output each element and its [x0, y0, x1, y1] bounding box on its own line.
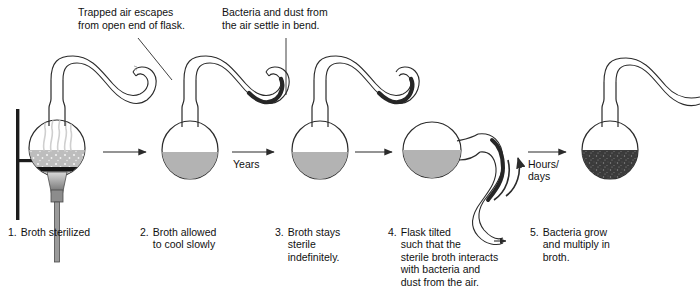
- caption-1: 1. Broth sterilized: [8, 226, 132, 238]
- caption-5: 5. Bacteria grow and multiply in broth.: [530, 226, 660, 263]
- flask-3-group: [290, 56, 419, 184]
- caption-1-text: Broth sterilized: [21, 226, 132, 238]
- step-label-years: Years: [233, 158, 259, 170]
- caption-3-number: 3.: [275, 226, 284, 263]
- caption-5-text: Bacteria grow and multiply in broth.: [543, 226, 660, 263]
- swan-neck-tube-5: [604, 58, 700, 106]
- step-label-hours-days: Hours/ days: [528, 158, 559, 183]
- flask-1-neck: [49, 80, 65, 126]
- caption-2: 2. Broth allowed to cool slowly: [140, 226, 264, 251]
- diagram-canvas: Trapped air escapes from open end of fla…: [0, 0, 700, 300]
- caption-2-text: Broth allowed to cool slowly: [153, 226, 264, 251]
- flask-5-neck: [602, 82, 618, 127]
- bunsen-burner: [47, 172, 67, 262]
- tube-4-dust-deposit: [488, 140, 503, 200]
- swan-neck-tube-1: [51, 56, 156, 103]
- tube-2-open-end: [266, 72, 269, 76]
- caption-3-text: Broth stays sterile indefinitely.: [288, 226, 383, 263]
- caption-4-number: 4.: [388, 226, 397, 288]
- flask-2-neck: [182, 80, 198, 127]
- annotation-leader-trapped-air: [138, 38, 172, 80]
- annotation-bacteria-dust: Bacteria and dust from the air settle in…: [222, 6, 372, 31]
- flask-5-broth: [580, 150, 640, 184]
- flask-5-group: [580, 58, 700, 184]
- annotation-trapped-air: Trapped air escapes from open end of fla…: [78, 6, 218, 31]
- flask-3-neck: [312, 80, 328, 127]
- swan-neck-tube-3: [314, 56, 419, 103]
- caption-2-number: 2.: [140, 226, 149, 251]
- caption-3: 3. Broth stays sterile indefinitely.: [275, 226, 383, 263]
- rotation-arrow: [494, 158, 519, 200]
- caption-4: 4. Flask tilted such that the sterile br…: [388, 226, 524, 288]
- swan-neck-tube-2: [184, 56, 289, 103]
- caption-5-number: 5.: [530, 226, 539, 263]
- caption-1-number: 1.: [8, 226, 17, 238]
- caption-4-text: Flask tilted such that the sterile broth…: [401, 226, 524, 288]
- flask-2-group: [160, 56, 289, 184]
